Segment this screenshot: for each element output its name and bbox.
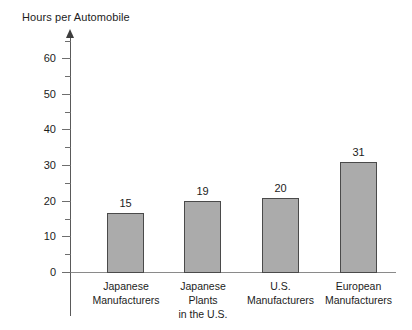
bar-value-label: 15	[107, 198, 144, 209]
x-category-label: Japanese Manufacturers	[85, 279, 167, 307]
y-tick-major	[62, 272, 71, 273]
bar-value-label: 31	[340, 147, 377, 158]
y-tick-minor	[65, 112, 71, 113]
bar-chart: Hours per Automobile 0 10 20 30 40 50 60…	[0, 0, 412, 330]
bar-european-manufacturers[interactable]	[340, 162, 377, 273]
y-tick-label: 40	[30, 124, 56, 135]
bar-us-manufacturers[interactable]	[262, 198, 299, 273]
y-tick-major	[62, 165, 71, 166]
y-tick-minor	[65, 183, 71, 184]
y-tick-major	[62, 94, 71, 95]
y-tick-minor	[65, 41, 71, 42]
y-tick-major	[62, 129, 71, 130]
bar-japanese-manufacturers[interactable]	[107, 213, 144, 273]
bar-value-label: 20	[262, 183, 299, 194]
bar-value-label: 19	[184, 186, 221, 197]
x-category-label: U.S. Manufacturers	[239, 279, 322, 307]
y-tick-major	[62, 201, 71, 202]
y-axis-line	[70, 36, 71, 316]
bar-japanese-plants-us[interactable]	[184, 201, 221, 273]
plot-area: 0 10 20 30 40 50 60 15 19 20 31 Japanese…	[0, 0, 412, 330]
y-tick-label: 50	[30, 89, 56, 100]
y-tick-major	[62, 58, 71, 59]
y-tick-label: 10	[30, 231, 56, 242]
x-category-label: European Manufacturers	[317, 279, 400, 307]
y-tick-minor	[65, 76, 71, 77]
y-tick-label: 0	[30, 267, 56, 278]
y-tick-label: 20	[30, 196, 56, 207]
y-tick-label: 30	[30, 160, 56, 171]
y-tick-major	[62, 236, 71, 237]
y-tick-minor	[65, 254, 71, 255]
y-axis-arrowhead	[66, 29, 74, 38]
y-tick-minor	[65, 219, 71, 220]
x-category-label: Japanese Plants in the U.S.	[162, 279, 244, 321]
y-tick-minor	[65, 147, 71, 148]
y-tick-label: 60	[30, 53, 56, 64]
